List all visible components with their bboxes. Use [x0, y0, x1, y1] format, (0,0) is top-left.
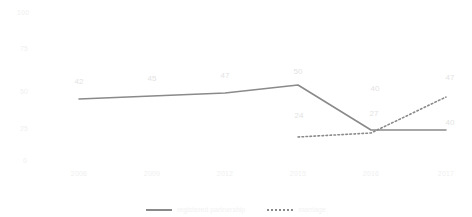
data-label-partnership-2017: 40 — [446, 119, 455, 127]
legend-dotted-line-icon — [267, 209, 293, 211]
data-label-partnership-2006: 42 — [75, 78, 84, 86]
legend-item-registered-partnership[interactable]: registered partnership — [146, 206, 245, 213]
legend-item-marriage[interactable]: marriage — [267, 206, 326, 213]
legend-label-registered-partnership: registered partnership — [177, 206, 245, 213]
data-label-marriage-2015: 24 — [295, 112, 304, 120]
legend-solid-line-icon — [146, 209, 172, 211]
data-label-partnership-2012: 47 — [221, 72, 230, 80]
chart-legend: registered partnership marriage — [0, 206, 472, 213]
data-label-marriage-2016: 27 — [370, 110, 379, 118]
data-label-marriage-2017: 47 — [446, 74, 455, 82]
data-label-partnership-2015: 50 — [294, 68, 303, 76]
data-label-partnership-2009: 45 — [148, 75, 157, 83]
plot-area — [0, 0, 472, 217]
data-label-partnership-2016: 40 — [371, 85, 380, 93]
line-chart: 100 75 50 25 0 2006 2009 2012 2015 2016 … — [0, 0, 472, 217]
legend-label-marriage: marriage — [298, 206, 326, 213]
